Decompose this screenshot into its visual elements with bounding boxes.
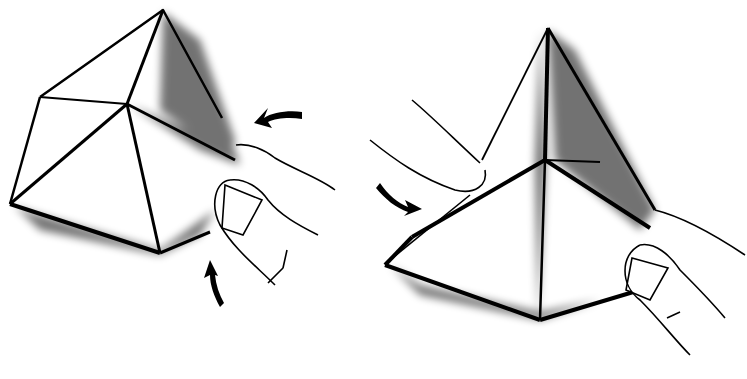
left-step-panel <box>10 10 335 307</box>
hand-right-top <box>370 100 485 191</box>
folding-illustration <box>0 0 747 379</box>
hand-right-bottom <box>625 210 745 355</box>
hand-left <box>215 145 335 285</box>
shading-left <box>14 12 240 255</box>
curved-arrow-down-right <box>376 183 422 216</box>
curved-arrow-up <box>204 260 224 307</box>
curved-arrow-left <box>254 108 302 128</box>
right-step-panel <box>370 28 745 355</box>
